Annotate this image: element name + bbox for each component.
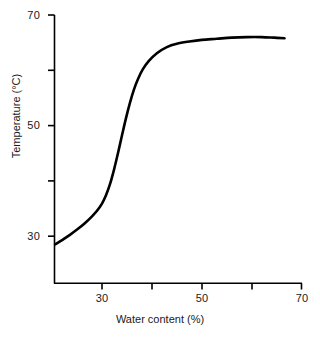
x-axis-title: Water content (%) bbox=[0, 313, 320, 325]
x-tick-label-30: 30 bbox=[88, 292, 116, 304]
chart-container: 70 50 30 30 50 70 Temperature (°C) Water… bbox=[0, 0, 320, 340]
x-tick-label-70: 70 bbox=[288, 292, 316, 304]
chart-plot-area bbox=[0, 0, 320, 340]
y-axis-title: Temperature (°C) bbox=[10, 56, 22, 176]
y-tick-label-70: 70 bbox=[14, 9, 40, 21]
y-tick-label-30: 30 bbox=[14, 230, 40, 242]
x-tick-label-50: 50 bbox=[188, 292, 216, 304]
